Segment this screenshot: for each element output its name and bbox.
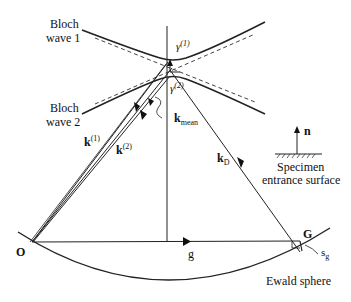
ewald-diagram: Bloch wave 1 Bloch wave 2 γ(1) γ(2) kmea… xyxy=(0,0,351,302)
k-extra-line xyxy=(30,64,166,242)
kmean-label: kmean xyxy=(174,111,198,127)
k2-label: k(2) xyxy=(116,142,132,157)
normal-n-label: n xyxy=(304,124,311,138)
bloch-wave-1-label-line1: Bloch xyxy=(50,17,79,31)
bloch-wave-2-label-line2: wave 2 xyxy=(46,115,80,129)
kmean-leader xyxy=(155,97,162,118)
specimen-label-line2: entrance surface xyxy=(262,173,340,187)
k1-label: k(1) xyxy=(84,134,100,149)
origin-O-label: O xyxy=(16,245,25,259)
specimen-hatch xyxy=(277,154,315,158)
bloch-wave-2-label-line1: Bloch xyxy=(50,101,79,115)
G-point-label: G xyxy=(303,227,312,241)
sg-label: sg xyxy=(321,246,329,261)
asymptote-1 xyxy=(95,38,255,102)
g-vector-label: g xyxy=(188,247,194,261)
bloch-wave-1-curve xyxy=(82,22,265,60)
bloch-wave-1-label-line2: wave 1 xyxy=(46,31,80,45)
sg-leader xyxy=(305,245,318,254)
k1-line xyxy=(32,62,168,242)
g-arrow-icon xyxy=(183,237,191,246)
kmean-line xyxy=(32,68,172,242)
kD-arrow-icon xyxy=(237,157,244,168)
kD-label: kD xyxy=(217,151,230,167)
gamma2-label: γ(2) xyxy=(170,81,184,94)
g-vector-line xyxy=(32,241,300,242)
specimen-label-line1: Specimen xyxy=(277,160,324,174)
normal-n-arrow-icon xyxy=(294,126,300,133)
k2-arrow-icon xyxy=(140,110,147,120)
ewald-sphere-arc xyxy=(18,228,330,280)
gamma1-label: γ(1) xyxy=(176,39,190,52)
ewald-sphere-label: Ewald sphere xyxy=(266,274,331,288)
